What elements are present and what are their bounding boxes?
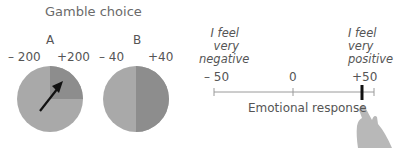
- tick-label-min: – 50: [204, 70, 229, 84]
- pie-b-gain-slice: [136, 66, 169, 132]
- option-a-label: A: [46, 33, 54, 47]
- pie-a-gain-slice: [50, 66, 83, 99]
- positive-anchor: I feel very positive: [348, 27, 393, 66]
- option-a-loss: – 200: [8, 50, 41, 64]
- axis-label: Emotional response: [248, 101, 367, 115]
- rating-scale: [214, 85, 374, 100]
- option-b-loss: – 40: [99, 50, 124, 64]
- tick-label-max: +50: [352, 70, 377, 84]
- option-b-gain: +40: [148, 50, 173, 64]
- tick-label-zero: 0: [289, 70, 297, 84]
- pie-b: [103, 66, 169, 132]
- gamble-title: Gamble choice: [45, 4, 142, 19]
- option-b-label: B: [133, 33, 141, 47]
- negative-anchor: I feel very negative: [199, 27, 239, 66]
- figure-graphics: [0, 0, 395, 148]
- option-a-gain: +200: [57, 50, 90, 64]
